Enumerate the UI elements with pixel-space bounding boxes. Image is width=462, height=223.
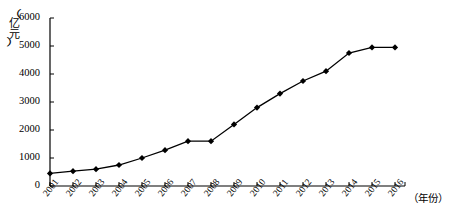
data-point-marker <box>93 166 99 172</box>
data-point-marker <box>300 78 306 84</box>
data-point-marker <box>47 170 53 176</box>
series-line <box>50 47 395 173</box>
data-point-marker <box>392 44 398 50</box>
data-point-marker <box>369 44 375 50</box>
data-point-marker <box>162 147 168 153</box>
line-chart: （ 亿 元 ） 0100020003000400050006000 200120… <box>0 0 462 223</box>
data-point-marker <box>70 168 76 174</box>
data-point-marker <box>139 155 145 161</box>
plot-area <box>0 0 462 223</box>
data-point-marker <box>116 162 122 168</box>
data-point-marker <box>277 91 283 97</box>
data-point-marker <box>185 138 191 144</box>
